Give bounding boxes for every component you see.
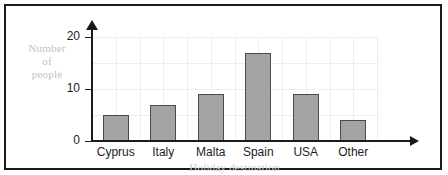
y-axis-tick-label: 0: [52, 133, 80, 147]
y-axis-tick-label: 10: [52, 81, 80, 95]
bar-italy: [150, 105, 176, 141]
vertical-gridline: [282, 37, 283, 141]
chart-frame: Number of people 01020 CyprusItalyMaltaS…: [4, 4, 442, 170]
vertical-gridline: [377, 37, 378, 141]
y-axis-tick: [85, 37, 92, 38]
bar-other: [340, 120, 366, 141]
plot-area: [92, 37, 377, 141]
y-axis-title-line-3: people: [18, 68, 76, 81]
y-axis-tick: [85, 89, 92, 90]
bar-spain: [245, 53, 271, 141]
y-axis-tick: [85, 141, 92, 142]
vertical-gridline: [140, 37, 141, 141]
x-axis-line: [91, 140, 411, 142]
chart-figure: Number of people 01020 CyprusItalyMaltaS…: [0, 0, 448, 175]
bar-usa: [293, 94, 319, 141]
x-axis-tick-label-other: Other: [323, 145, 383, 159]
x-axis-title: Holiday destination: [92, 161, 377, 173]
x-axis-arrow-icon: [410, 136, 419, 146]
y-axis-title-line-1: Number: [18, 42, 76, 55]
y-axis-tick-label: 20: [52, 29, 80, 43]
bar-cyprus: [103, 115, 129, 141]
vertical-gridline: [330, 37, 331, 141]
y-axis-title: Number of people: [18, 42, 76, 81]
y-axis-title-line-2: of: [18, 55, 76, 68]
vertical-gridline: [235, 37, 236, 141]
y-axis-line: [91, 28, 93, 142]
vertical-gridline: [187, 37, 188, 141]
bar-malta: [198, 94, 224, 141]
